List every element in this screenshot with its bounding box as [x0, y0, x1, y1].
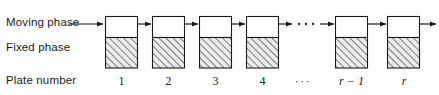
plate-number-3: 3: [213, 74, 219, 89]
plate-number-ellipsis: ···: [295, 75, 311, 87]
flow-gap-ellipsis: [298, 23, 314, 25]
plate-box-4: [247, 17, 279, 69]
plate-number-r-minus-1: r − 1: [339, 74, 364, 89]
plate-r-moving-phase-cell: [388, 17, 420, 38]
plate-box-3: [200, 17, 232, 69]
plate-box-r-minus-1: [336, 17, 368, 69]
plate-1-moving-phase-cell: [106, 17, 138, 38]
flow-gap-dot-3: [312, 23, 314, 25]
plate-box-2: [153, 17, 185, 69]
plate-number-1: 1: [119, 74, 125, 89]
moving-phase-row-label: Moving phase: [6, 16, 79, 28]
fixed-phase-row-label: Fixed phase: [6, 41, 70, 53]
plate-4-moving-phase-cell: [247, 17, 279, 38]
flow-gap-dot-1: [298, 23, 300, 25]
plate-box-r: [388, 17, 420, 69]
plate-2-moving-phase-cell: [153, 17, 185, 38]
plate-1-fixed-phase-cell: [106, 38, 138, 69]
plate-number-r: r: [402, 74, 407, 89]
plate-r-minus-1-moving-phase-cell: [336, 17, 368, 38]
plate-3-moving-phase-cell: [200, 17, 232, 38]
flow-gap-dot-2: [305, 23, 307, 25]
plate-3-fixed-phase-cell: [200, 38, 232, 69]
craig-plate-model-diagram: Moving phase Fixed phase Plate number 1 …: [0, 0, 439, 95]
plate-box-1: [106, 17, 138, 69]
plate-2-fixed-phase-cell: [153, 38, 185, 69]
plate-4-fixed-phase-cell: [247, 38, 279, 69]
plate-number-4: 4: [260, 74, 266, 89]
plate-number-2: 2: [166, 74, 172, 89]
plate-r-fixed-phase-cell: [388, 38, 420, 69]
plate-r-minus-1-fixed-phase-cell: [336, 38, 368, 69]
plate-number-row-label: Plate number: [6, 74, 76, 86]
